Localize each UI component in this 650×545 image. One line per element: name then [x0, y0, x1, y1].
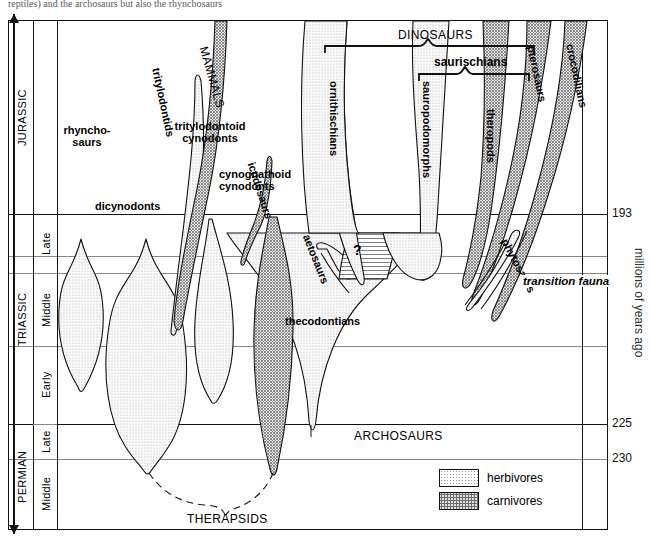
label-therapsids: THERAPSIDS [187, 513, 268, 526]
label-thecodontians: thecodontians [285, 316, 360, 328]
ytick-193: 193 [612, 206, 632, 220]
label-ornithischians: ornithischians [327, 81, 339, 156]
legend-item-herbivores: herbivores [439, 469, 589, 487]
figure-caption-top: reptiles) and the archosaurs but also th… [8, 0, 428, 10]
lineage-shape-tritylodontoid-cynodonts [195, 219, 234, 403]
ytick-230: 230 [612, 451, 632, 465]
ytick-225: 225 [612, 416, 632, 430]
legend: herbivores carnivores [439, 469, 589, 515]
lineage-shape-dicynodonts [106, 239, 187, 474]
yaxis-title: millions of years ago [632, 248, 646, 357]
legend-label-carnivores: carnivores [487, 494, 542, 508]
legend-swatch-carnivores [439, 492, 479, 510]
bracket-label-saurischians: saurischians [434, 56, 507, 69]
label-rhynchosaurs-line2: saurs [72, 136, 101, 148]
bracket-label-dinosaurs: DINOSAURS [398, 29, 473, 42]
therapsids-dashed-brace-2 [226, 473, 273, 515]
chart-frame: JURASSIC TRIASSIC PERMIAN Late Middle Ea… [8, 20, 608, 530]
label-rhynchosaurs: rhyncho- saurs [56, 125, 118, 148]
label-dicynodonts: dicynodonts [95, 201, 160, 213]
label-tritylodontoid-line1: tritylodontoid [175, 120, 246, 132]
therapsids-dashed-brace [149, 473, 225, 515]
label-archosaurs: ARCHOSAURS [354, 430, 443, 443]
label-sauropodomorphs: sauropodomorphs [420, 81, 432, 178]
lineage-shape-sauropodomorphs-base [383, 233, 442, 280]
time-axis-arrow [9, 14, 19, 534]
label-transition-fauna: transition fauna [520, 275, 612, 287]
lineage-shape-rhynchosaurs [59, 239, 104, 392]
label-tritylodontoid-line2: cynodonts [182, 132, 238, 144]
legend-label-herbivores: herbivores [487, 471, 543, 485]
legend-swatch-herbivores [439, 469, 479, 487]
label-question-mark: ? [353, 243, 362, 258]
label-rhynchosaurs-line1: rhyncho- [63, 124, 110, 136]
legend-item-carnivores: carnivores [439, 492, 589, 510]
label-theropods: theropods [484, 109, 496, 163]
